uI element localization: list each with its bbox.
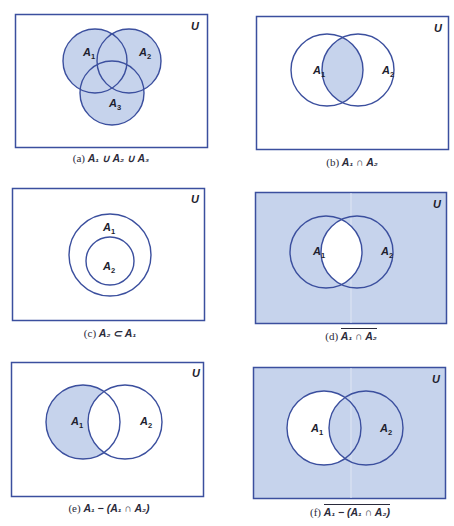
caption-tag: (f) <box>310 506 321 518</box>
universe-label: U <box>432 373 441 385</box>
panel-a-union-three-sets: U A1 A2 A3 <box>15 14 208 148</box>
universe-box <box>13 189 205 321</box>
caption-tag: (e) <box>68 502 80 514</box>
caption-expression-overlined: A₁ − (A₁ ∩ A₂) <box>324 504 390 518</box>
caption-expression: A₁ ∩ A₂ <box>342 156 378 168</box>
universe-label: U <box>434 22 443 34</box>
venn-e-svg: U A1 A2 <box>11 362 204 497</box>
caption-b: (b) A₁ ∩ A₂ <box>242 156 454 168</box>
universe-label: U <box>433 198 442 210</box>
venn-c-svg: U A1 A2 <box>12 188 205 321</box>
venn-diagram-figure: U A1 A2 A3 (a) A₁ ∪ A₂ ∪ A₃ U A1 A2 (b) … <box>0 0 454 526</box>
caption-expression: A₁ ∪ A₂ ∪ A₃ <box>88 152 149 164</box>
universe-label: U <box>191 20 200 32</box>
venn-b-svg: U A1 A2 <box>256 16 449 150</box>
universe-label: U <box>191 193 200 205</box>
caption-c: (c) A₂ ⊂ A₁ <box>0 327 220 339</box>
caption-expression-overlined: A₁ ∩ A₂ <box>341 328 377 342</box>
panel-c-subset: U A1 A2 <box>12 188 205 321</box>
caption-expression: A₁ − (A₁ ∩ A₂) <box>83 502 149 514</box>
venn-f-svg: U A1 A2 <box>253 367 446 499</box>
caption-f: (f) A₁ − (A₁ ∩ A₂) <box>240 506 454 518</box>
caption-tag: (d) <box>325 330 338 342</box>
caption-expression: A₂ ⊂ A₁ <box>99 327 136 339</box>
venn-a-svg: U A1 A2 A3 <box>15 14 208 148</box>
panel-f-complement-difference: U A1 A2 <box>253 367 446 499</box>
universe-label: U <box>192 367 201 379</box>
caption-d: (d) A₁ ∩ A₂ <box>241 330 454 342</box>
venn-d-svg: U A1 A2 <box>255 192 447 324</box>
caption-e: (e) A₁ − (A₁ ∩ A₂) <box>0 502 219 514</box>
caption-tag: (a) <box>73 152 85 164</box>
caption-tag: (b) <box>326 156 339 168</box>
panel-d-complement-intersection: U A1 A2 <box>255 192 447 324</box>
panel-e-difference: U A1 A2 <box>11 362 204 497</box>
caption-a: (a) A₁ ∪ A₂ ∪ A₃ <box>1 152 221 164</box>
caption-tag: (c) <box>84 327 96 339</box>
panel-b-intersection: U A1 A2 <box>256 16 449 150</box>
